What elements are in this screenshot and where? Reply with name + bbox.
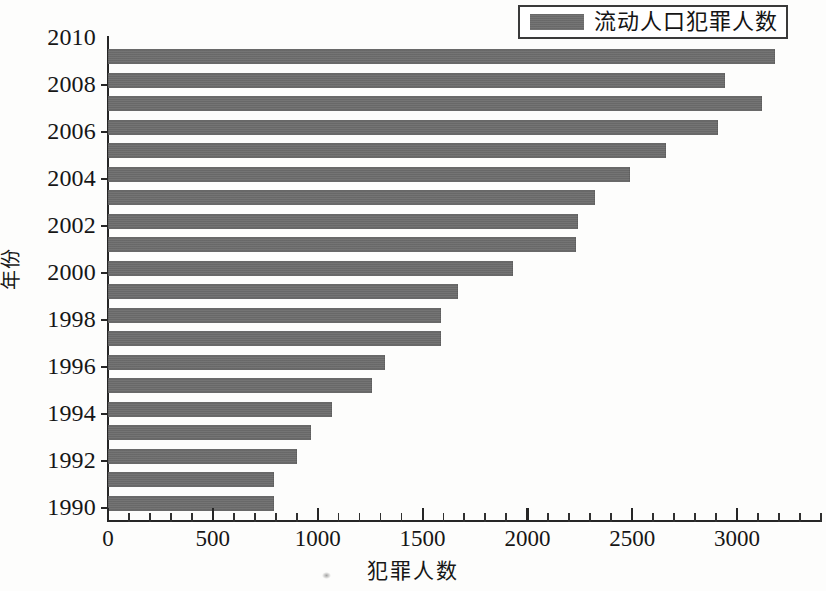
bar-2006: [108, 120, 718, 135]
bar-row: [108, 49, 775, 64]
x-tick-major-0: [107, 508, 109, 522]
y-tick-label-2002: 2002: [28, 213, 96, 237]
bar-2002: [108, 214, 578, 229]
x-tick-major-2500: [631, 508, 633, 522]
x-tick-major-1500: [422, 508, 424, 522]
x-tick-minor-2400: [610, 513, 612, 522]
bar-2007: [108, 96, 762, 111]
y-tick-label-2004: 2004: [28, 166, 96, 190]
x-tick-label-1000: 1000: [295, 526, 341, 552]
bar-row: [108, 378, 372, 393]
bar-1997: [108, 331, 441, 346]
bar-2009: [108, 49, 775, 64]
y-tick-label-1996: 1996: [28, 354, 96, 378]
bar-2001: [108, 237, 576, 252]
bar-row: [108, 449, 297, 464]
bar-row: [108, 331, 441, 346]
bar-row: [108, 143, 666, 158]
x-tick-minor-100: [128, 513, 130, 522]
y-tick-label-2006: 2006: [28, 119, 96, 143]
x-tick-minor-1200: [359, 513, 361, 522]
x-tick-minor-2700: [673, 513, 675, 522]
x-tick-minor-1700: [463, 513, 465, 522]
x-tick-minor-1100: [338, 513, 340, 522]
bar-2003: [108, 190, 595, 205]
x-tick-minor-2300: [589, 513, 591, 522]
bar-1999: [108, 284, 458, 299]
bar-1993: [108, 425, 311, 440]
bar-row: [108, 96, 762, 111]
x-tick-minor-3400: [820, 513, 822, 522]
bar-2005: [108, 143, 666, 158]
bar-row: [108, 214, 578, 229]
y-tick-label-1990: 1990: [28, 495, 96, 519]
bar-row: [108, 120, 718, 135]
plot-area: [108, 38, 820, 520]
x-axis-title: 犯罪人数: [0, 558, 826, 584]
legend-label: 流动人口犯罪人数: [594, 10, 778, 34]
x-tick-minor-2600: [652, 513, 654, 522]
x-tick-minor-700: [254, 513, 256, 522]
x-tick-minor-200: [149, 513, 151, 522]
x-tick-major-500: [212, 508, 214, 522]
x-tick-label-3000: 3000: [714, 526, 760, 552]
y-tick-label-2010: 2010: [28, 25, 96, 49]
bar-row: [108, 402, 332, 417]
x-tick-minor-800: [275, 513, 277, 522]
x-tick-major-2000: [526, 508, 528, 522]
x-tick-minor-3300: [799, 513, 801, 522]
x-tick-minor-300: [170, 513, 172, 522]
bar-1994: [108, 402, 332, 417]
bar-row: [108, 190, 595, 205]
x-tick-minor-3200: [778, 513, 780, 522]
bar-2000: [108, 261, 513, 276]
x-tick-minor-600: [233, 513, 235, 522]
bar-row: [108, 261, 513, 276]
x-tick-label-0: 0: [102, 526, 114, 552]
y-axis-title: 年份: [0, 234, 22, 304]
x-tick-label-2000: 2000: [504, 526, 550, 552]
x-tick-major-3000: [736, 508, 738, 522]
scan-artifact: [322, 572, 331, 579]
x-tick-minor-900: [296, 513, 298, 522]
x-tick-minor-400: [191, 513, 193, 522]
x-tick-label-500: 500: [196, 526, 231, 552]
bar-1995: [108, 378, 372, 393]
bar-row: [108, 284, 458, 299]
bar-row: [108, 472, 274, 487]
x-tick-minor-1800: [484, 513, 486, 522]
chart-legend: 流动人口犯罪人数: [518, 5, 788, 39]
x-tick-minor-1600: [443, 513, 445, 522]
y-axis-labels: 2010200820062004200220001998199619941992…: [22, 0, 96, 591]
bar-1992: [108, 449, 297, 464]
x-tick-minor-2900: [715, 513, 717, 522]
y-tick-label-1994: 1994: [28, 401, 96, 425]
chart-page: 流动人口犯罪人数 2010200820062004200220001998199…: [0, 0, 826, 591]
bar-row: [108, 237, 576, 252]
x-tick-minor-2100: [547, 513, 549, 522]
bar-1996: [108, 355, 385, 370]
x-tick-label-2500: 2500: [609, 526, 655, 552]
x-tick-minor-1300: [380, 513, 382, 522]
y-tick-label-2000: 2000: [28, 260, 96, 284]
bar-row: [108, 496, 274, 511]
bar-2008: [108, 73, 725, 88]
x-tick-label-1500: 1500: [400, 526, 446, 552]
x-tick-major-1000: [317, 508, 319, 522]
x-tick-minor-2200: [568, 513, 570, 522]
x-tick-minor-1400: [401, 513, 403, 522]
x-tick-minor-2800: [694, 513, 696, 522]
y-tick-label-1992: 1992: [28, 448, 96, 472]
x-tick-minor-3100: [757, 513, 759, 522]
bar-row: [108, 167, 630, 182]
y-tick-label-1998: 1998: [28, 307, 96, 331]
x-tick-minor-1900: [505, 513, 507, 522]
bar-row: [108, 355, 385, 370]
bar-row: [108, 308, 441, 323]
y-tick-label-2008: 2008: [28, 72, 96, 96]
bar-row: [108, 425, 311, 440]
bar-1998: [108, 308, 441, 323]
bar-2004: [108, 167, 630, 182]
bar-1991: [108, 472, 274, 487]
bar-1990: [108, 496, 274, 511]
